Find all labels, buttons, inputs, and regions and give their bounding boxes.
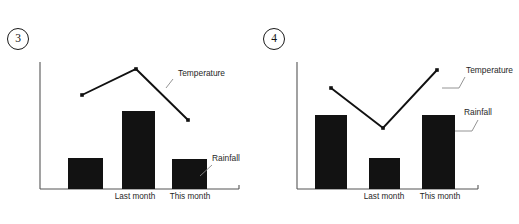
temperature-callout-leader-line (442, 77, 465, 88)
temperature-point-marker (80, 93, 84, 97)
x-axis-tick-label: This month (170, 192, 211, 201)
x-axis-tick-label: Last month (364, 192, 405, 201)
chart-3: TemperatureRainfallLast monthThis month (0, 0, 259, 224)
x-axis-tick-label: Last month (115, 192, 156, 201)
temperature-callout-label: Temperature (466, 65, 513, 75)
panel-3: 3 TemperatureRainfallLast monthThis mont… (0, 0, 259, 224)
temperature-callout-leader-line (166, 79, 173, 88)
temperature-point-marker (381, 126, 385, 130)
figure-canvas: 3 TemperatureRainfallLast monthThis mont… (0, 0, 519, 224)
rainfall-bar (369, 158, 400, 189)
x-axis-tick-label: This month (420, 192, 461, 201)
rainfall-callout-label: Rainfall (212, 153, 240, 163)
rainfall-bar (422, 115, 455, 189)
temperature-point-marker (329, 86, 333, 90)
rainfall-callout-label: Rainfall (464, 107, 492, 117)
rainfall-bar (68, 158, 103, 189)
temperature-point-marker (186, 118, 190, 122)
temperature-point-marker (134, 67, 138, 71)
rainfall-bar (315, 115, 347, 189)
temperature-point-marker (435, 68, 439, 72)
rainfall-callout-leader-line (455, 120, 478, 131)
rainfall-bar (122, 111, 155, 189)
panel-4: 4 TemperatureRainfallLast monthThis mont… (259, 0, 518, 224)
chart-4: TemperatureRainfallLast monthThis month (259, 0, 518, 224)
temperature-callout-label: Temperature (178, 68, 225, 78)
